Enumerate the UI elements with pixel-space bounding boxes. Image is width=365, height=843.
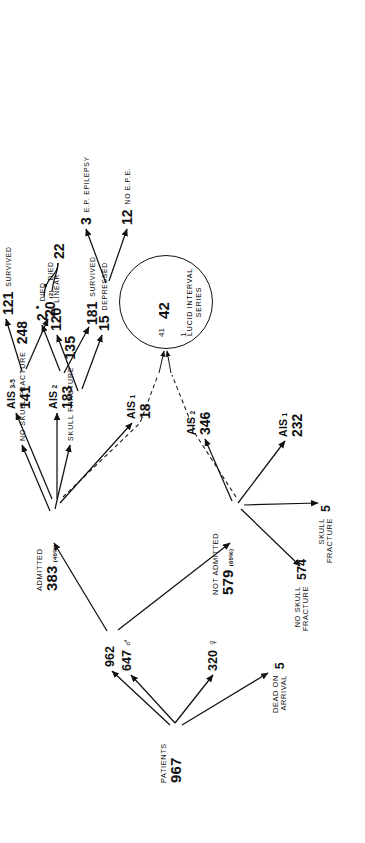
node-na-no-skull-fracture: NO SKULL FRACTURE 574: [294, 559, 311, 631]
ad-ais2-value: 183: [60, 386, 76, 409]
node-na-ais1: AIS 1 232: [278, 413, 305, 437]
na-no-skull-fracture-label-2: FRACTURE: [302, 586, 310, 631]
not-admitted-percent: (60%): [228, 549, 235, 567]
na-ais2-sub: 2: [189, 411, 196, 415]
node-total-died: 22: [50, 243, 68, 259]
na-ais1-value: 232: [290, 414, 306, 437]
female-value: 320: [206, 650, 220, 671]
lucid-caption: LUCID INTERVAL SERIES: [186, 261, 204, 343]
admitted-value: 383: [44, 565, 61, 591]
connector-lines: [0, 0, 365, 843]
not-admitted-value: 579: [220, 569, 237, 595]
node-not-admitted: NOT ADMITTED 579 (60%): [212, 533, 237, 595]
ad-ais35-sub: 3-5: [9, 379, 16, 389]
node-na-ais2: AIS 2 346: [186, 411, 213, 435]
na-ais1-label: AIS: [278, 419, 290, 437]
ad-ais35-died-paren: (2): [47, 290, 54, 298]
node-no-ep-epilepsy: 12 NO E.P.E.: [119, 168, 135, 225]
lucid-caption-line-2: SERIES: [195, 261, 204, 343]
na-ais1-sub: 1: [281, 413, 288, 417]
ad-ais1-sub: 1: [129, 395, 136, 399]
ad-ais2-survived-label: SURVIVED: [89, 256, 96, 296]
admitted-percent: (40%): [52, 545, 59, 563]
depressed-label: DEPRESSED: [101, 262, 108, 310]
ad-ais35-survived-label: SURVIVED: [5, 246, 12, 286]
ad-ais35-value: 141: [18, 386, 34, 409]
ad-ais35-survived-value: 121: [0, 292, 16, 315]
ad-ais2-label: AIS: [48, 391, 60, 409]
node-ep-epilepsy: 3 E.P. EPILEPSY: [78, 156, 94, 225]
patients-value: 967: [168, 757, 185, 783]
node-female: 320 ♀: [206, 638, 220, 671]
ad-skull-fracture-value: 135: [62, 336, 78, 359]
ad-ais2-died-marker-icon: •: [35, 305, 39, 309]
ad-ais35-died-value: 20: [42, 301, 58, 317]
na-ais2-label: AIS: [186, 417, 198, 435]
na-skull-fracture-label-2: FRACTURE: [326, 518, 334, 563]
lucid-total-value: 42: [155, 302, 172, 319]
node-ad-ais1: AIS 1 18: [126, 395, 153, 419]
ep-epilepsy-value: 3: [78, 217, 94, 225]
node-surviving: 962: [100, 646, 118, 667]
node-admitted: ADMITTED 383 (40%): [36, 545, 61, 591]
node-ad-ais35-survived: 121 SURVIVED: [0, 246, 16, 315]
lucid-in-from-admitted: 41: [150, 328, 168, 337]
surviving-value: 962: [103, 646, 117, 667]
total-died-value: 22: [51, 243, 67, 259]
node-ad-ais35: AIS 3-5 141: [6, 379, 33, 409]
no-ep-epilepsy-label: NO E.P.E.: [124, 168, 131, 205]
lucid-in-admitted-value: 41: [157, 328, 166, 337]
na-ais2-value: 346: [198, 412, 214, 435]
ad-ais35-died-label: DIED: [47, 261, 54, 280]
node-ad-ais2: AIS 2 183: [48, 385, 75, 409]
node-male: 647 ♂: [120, 638, 134, 671]
male-value: 647: [120, 650, 134, 671]
lucid-total: 42: [155, 302, 173, 319]
ad-ais2-sub: 2: [51, 385, 58, 389]
ad-ais35-died-marker-icon: •: [43, 283, 47, 287]
node-ad-ais2-survived: 181 SURVIVED: [84, 256, 100, 325]
ad-ais1-label: AIS: [126, 401, 138, 419]
lucid-caption-line-1: LUCID INTERVAL: [186, 261, 195, 343]
dead-on-arrival-label-2: ARRIVAL: [280, 675, 288, 710]
figure-page: PATIENTS 967 647 ♂ 320 ♀ DEAD ON ARRIVAL…: [0, 0, 365, 843]
male-symbol-icon: ♂: [120, 638, 134, 647]
ad-ais35-label: AIS: [6, 391, 18, 409]
node-na-skull-fracture: SKULL FRACTURE 5: [318, 505, 335, 563]
ad-ais2-survived-value: 181: [84, 302, 100, 325]
no-ep-epilepsy-value: 12: [119, 209, 135, 225]
ad-ais1-value: 18: [138, 403, 154, 419]
ad-no-skull-fracture-value: 248: [14, 321, 30, 344]
dead-on-arrival-value: 5: [273, 662, 287, 669]
rotated-diagram-canvas: PATIENTS 967 647 ♂ 320 ♀ DEAD ON ARRIVAL…: [0, 0, 365, 843]
node-dead-on-arrival: DEAD ON ARRIVAL 5: [272, 662, 289, 713]
na-no-skull-fracture-value: 574: [295, 559, 309, 580]
ep-epilepsy-label: E.P. EPILEPSY: [83, 156, 90, 212]
node-patients: PATIENTS 967: [160, 743, 185, 783]
na-skull-fracture-value: 5: [319, 505, 333, 512]
female-symbol-icon: ♀: [206, 638, 220, 647]
node-ad-ais35-died: 20 (2) • DIED: [42, 261, 58, 317]
